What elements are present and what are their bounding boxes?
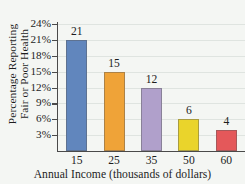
bar xyxy=(178,119,199,151)
bar-value-label: 12 xyxy=(132,74,172,86)
plot-area xyxy=(58,24,245,151)
y-axis-tick-label: 12% xyxy=(1,82,51,93)
x-axis-tick-label: 35 xyxy=(132,154,172,167)
gridline xyxy=(58,24,245,25)
x-axis-tick-label: 50 xyxy=(169,154,209,167)
y-axis-line xyxy=(57,22,58,152)
bar-value-label: 15 xyxy=(94,58,134,70)
y-axis-tick-label: 6% xyxy=(1,113,51,124)
y-axis-tick-label: 24% xyxy=(1,18,51,29)
bar-value-label: 6 xyxy=(169,105,209,117)
y-axis-tick-label: 9% xyxy=(1,97,51,108)
y-axis-tick-label: 18% xyxy=(1,50,51,61)
bar-chart-figure: Percentage Reporting Fair or Poor Health… xyxy=(0,0,245,184)
bar-value-label: 4 xyxy=(206,116,245,128)
x-axis-line xyxy=(57,151,245,152)
x-axis-tick-label: 60 xyxy=(206,154,245,167)
y-axis-tick-label: 15% xyxy=(1,66,51,77)
bar xyxy=(104,72,125,151)
bar xyxy=(66,40,87,151)
bar xyxy=(141,88,162,152)
y-axis-tick-label: 3% xyxy=(1,129,51,140)
bar-value-label: 21 xyxy=(57,26,97,38)
x-axis-tick-label: 15 xyxy=(57,154,97,167)
bar xyxy=(216,130,237,151)
y-axis-tick-labels: 3%6%9%12%15%18%21%24% xyxy=(0,0,51,184)
x-axis-title: Annual Income (thousands of dollars) xyxy=(0,168,245,181)
x-axis-tick-label: 25 xyxy=(94,154,134,167)
y-axis-tick-label: 21% xyxy=(1,34,51,45)
